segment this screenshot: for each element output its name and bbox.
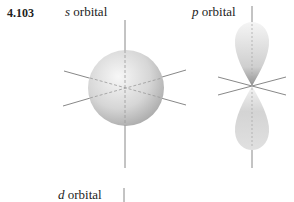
p-orbital-diagram [218, 6, 286, 168]
orbital-figures [0, 0, 294, 202]
s-orbital-diagram [63, 20, 186, 168]
